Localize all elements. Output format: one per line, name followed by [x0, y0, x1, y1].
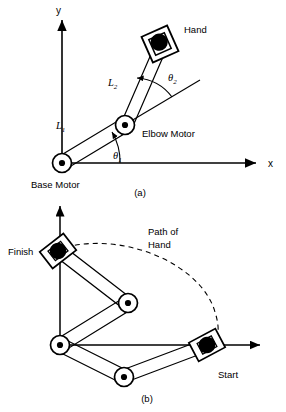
link2-length-label: L2 — [107, 77, 118, 91]
path-of-hand-label-line2: Hand — [148, 239, 171, 250]
theta2-label: θ2 — [168, 72, 177, 86]
elbow-motor-joint — [116, 116, 135, 135]
elbow-joint-lower — [115, 368, 134, 387]
path-of-hand-label-line1: Path of — [148, 226, 178, 237]
finish-label: Finish — [8, 246, 33, 257]
start-label: Start — [218, 369, 238, 380]
link1-length-label: L1 — [55, 120, 65, 134]
base-motor-joint-b — [51, 336, 70, 355]
finish-gripper — [40, 233, 77, 268]
caption-b: (b) — [141, 393, 153, 404]
theta2-arc — [137, 78, 172, 97]
hand-label: Hand — [184, 24, 207, 35]
elbow-motor-label: Elbow Motor — [142, 128, 195, 139]
y-axis-label: y — [56, 5, 61, 16]
panel-a: y x Hand Elbow Motor Base Motor L1 L2 θ1… — [31, 5, 273, 198]
path-of-hand-curve — [66, 243, 218, 347]
caption-a: (a) — [134, 187, 146, 198]
hand-gripper-a — [142, 26, 179, 63]
panel-b: Finish Start Path of Hand (b) — [8, 206, 260, 404]
elbow-joint-upper — [119, 294, 138, 313]
figure-container: y x Hand Elbow Motor Base Motor L1 L2 θ1… — [0, 0, 286, 412]
x-axis-label: x — [268, 158, 273, 169]
base-motor-joint — [53, 154, 72, 173]
base-motor-label: Base Motor — [31, 179, 80, 190]
theta1-label: θ1 — [113, 150, 122, 164]
robot-arm-diagram: y x Hand Elbow Motor Base Motor L1 L2 θ1… — [0, 0, 286, 412]
link1-extension-line — [131, 80, 200, 121]
